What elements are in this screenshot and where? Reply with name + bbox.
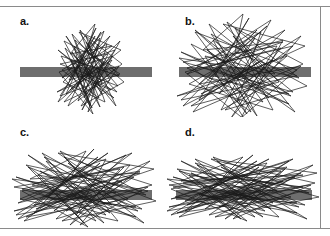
panel-b-label: b. [185, 16, 195, 27]
panel-d-label: d. [185, 127, 195, 138]
scribble-path-b [177, 14, 307, 117]
frame-bottom-border [0, 228, 330, 229]
panel-a-label: a. [20, 16, 29, 27]
panel-c: c. [0, 117, 165, 228]
panel-c-label: c. [20, 127, 29, 138]
panel-a: a. [0, 6, 165, 117]
figure-root: a. b. c. d. [0, 0, 330, 236]
scribble-path-d [167, 155, 319, 221]
panel-b: b. [165, 6, 321, 117]
panel-d: d. [165, 117, 321, 228]
scribble-path-c [12, 149, 156, 227]
